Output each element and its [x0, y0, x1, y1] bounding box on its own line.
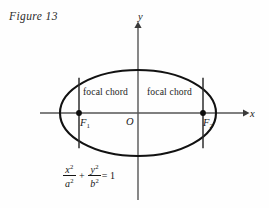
equation-term-2: y2 b2 — [88, 163, 101, 189]
equation-term-1-numerator: x2 — [63, 163, 75, 175]
equation-term-2-numerator-exponent: 2 — [95, 163, 98, 170]
x-axis-arrowhead — [243, 109, 250, 116]
focus-2-letter: F — [203, 117, 209, 128]
focus-2-label: F2 — [203, 117, 213, 130]
focus-1-point — [76, 110, 82, 116]
equation-right-hand-side: = 1 — [102, 171, 115, 181]
focus-2-subscript: 2 — [210, 122, 214, 130]
focal-chord-left-label: focal chord — [83, 86, 128, 97]
focus-1-subscript: 1 — [87, 122, 91, 130]
equation-term-2-denominator-base: b — [90, 177, 95, 188]
y-axis-label: y — [138, 11, 143, 22]
equation-term-1-numerator-exponent: 2 — [70, 163, 73, 170]
equation-plus-operator: + — [79, 171, 85, 181]
origin-label: O — [126, 116, 134, 127]
figure-container: Figure 13 y x O focal chord focal chord … — [0, 0, 269, 208]
equation-term-1-denominator: a2 — [63, 177, 76, 189]
y-axis-arrowhead — [134, 22, 141, 29]
ellipse-diagram — [0, 0, 269, 208]
equation-term-2-numerator: y2 — [89, 163, 101, 175]
focus-1-letter: F — [80, 117, 86, 128]
equation-term-2-denominator-exponent: 2 — [96, 177, 99, 184]
ellipse-equation: x2 a2 + y2 b2 = 1 — [62, 163, 115, 189]
equation-term-2-denominator: b2 — [88, 177, 101, 189]
x-axis-label: x — [250, 108, 255, 119]
focus-1-label: F1 — [80, 117, 90, 130]
equation-term-1-denominator-exponent: 2 — [70, 177, 73, 184]
focal-chord-right-label: focal chord — [147, 86, 192, 97]
equation-term-1: x2 a2 — [63, 163, 76, 189]
focus-2-point — [200, 110, 206, 116]
